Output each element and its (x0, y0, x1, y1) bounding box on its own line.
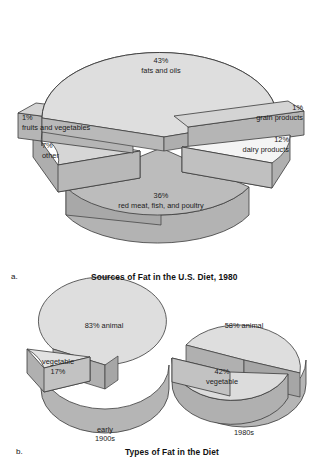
label-fats-and-oils-pct: 43% (154, 56, 169, 65)
label-early-1900s-animal: 83% animal (85, 321, 124, 330)
panel-a-letter: a. (11, 272, 18, 281)
label-1980s-animal: 58% animal (225, 321, 264, 330)
label-red-meat-name: red meat, fish, and poultry (118, 201, 204, 210)
caption-panel-b: Types of Fat in the Diet (125, 447, 219, 457)
label-other-pct: 7% (42, 141, 53, 150)
label-1980s-vegetable-name: vegetable (206, 377, 238, 386)
period-label-early-1900s: early 1900s (70, 425, 140, 444)
pie-1980s (172, 325, 306, 427)
caption-panel-a: Sources of Fat in the U.S. Diet, 1980 (91, 272, 238, 282)
label-dairy-products-pct: 12% (274, 135, 289, 144)
label-fruits-vegetables-name: fruits and vegetables (22, 123, 91, 132)
panel-b-letter: b. (16, 447, 23, 456)
label-1980s-vegetable-pct: 42% (215, 367, 230, 376)
pie-early-1900s (27, 277, 169, 433)
label-red-meat-pct: 36% (154, 191, 169, 200)
label-early-1900s-vegetable-pct: 17% (51, 367, 66, 376)
label-early-1900s-vegetable-name: vegetable (42, 357, 74, 366)
label-fats-and-oils-name: fats and oils (141, 66, 181, 75)
figure-fat-in-diet: 43% fats and oils 1% grain products 12% … (0, 0, 322, 466)
label-fruits-vegetables-pct: 1% (22, 113, 33, 122)
label-grain-products-pct: 1% (292, 103, 303, 112)
label-dairy-products-name: dairy products (243, 145, 290, 154)
label-other-name: other (42, 151, 59, 160)
label-grain-products-name: grain products (256, 113, 303, 122)
period-label-1980s: 1980s (209, 428, 279, 437)
